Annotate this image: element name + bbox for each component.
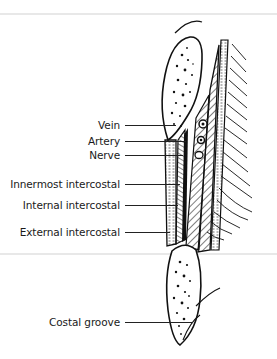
leader-line-external-intercostal bbox=[125, 232, 170, 233]
leader-line-artery bbox=[125, 141, 186, 142]
leader-line-internal-intercostal bbox=[125, 205, 178, 206]
lower-rib bbox=[167, 245, 220, 345]
nerve-bundle bbox=[195, 152, 203, 159]
label-internal-intercostal: Internal intercostal bbox=[23, 199, 120, 211]
label-innermost-intercostal: Innermost intercostal bbox=[10, 178, 120, 190]
label-nerve: Nerve bbox=[89, 149, 120, 161]
label-costal-groove: Costal groove bbox=[49, 316, 120, 328]
label-external-intercostal: External intercostal bbox=[20, 226, 120, 238]
leader-line-costal-groove bbox=[125, 322, 193, 323]
leader-line-innermost-intercostal bbox=[125, 184, 180, 185]
label-vein: Vein bbox=[98, 119, 120, 131]
label-artery: Artery bbox=[88, 135, 120, 147]
leader-line-nerve bbox=[125, 155, 183, 156]
leader-line-vein bbox=[125, 125, 176, 126]
